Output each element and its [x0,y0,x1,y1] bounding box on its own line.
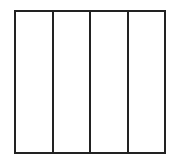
column-4 [129,12,165,152]
square-divided-into-fourths [14,10,166,154]
column-2 [54,12,92,152]
column-1 [16,12,54,152]
column-3 [91,12,129,152]
